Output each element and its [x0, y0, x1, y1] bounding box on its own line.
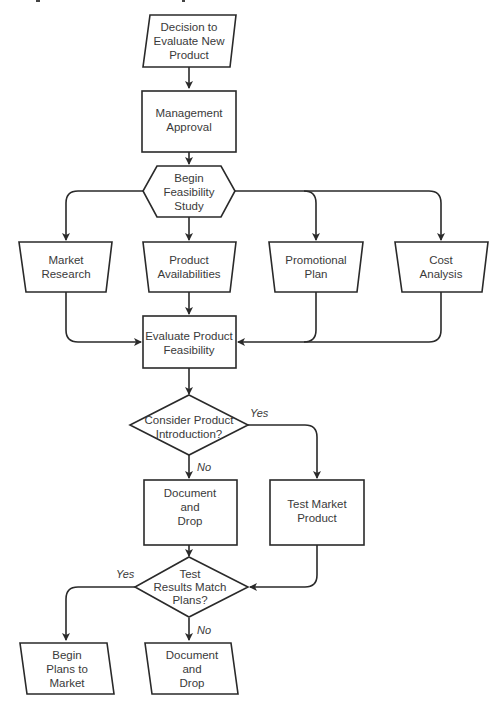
node-label: Product	[169, 254, 209, 266]
edge-label-no: No	[197, 461, 211, 473]
node-label: Management	[155, 107, 223, 119]
edge-label-yes: Yes	[116, 568, 135, 580]
node-label: Analysis	[420, 268, 463, 280]
node-label: Promotional	[285, 254, 346, 266]
node-label: Product	[169, 49, 209, 61]
node-label: Research	[41, 268, 90, 280]
node-label: and	[180, 501, 199, 513]
node-label: Cost	[429, 254, 453, 266]
edge-label-no: No	[197, 624, 211, 636]
node-label: Document	[164, 487, 217, 499]
node-test-market-product: Test Market Product	[270, 480, 364, 545]
node-promotional-plan: Promotional Plan	[269, 242, 363, 292]
node-market-research: Market Research	[19, 242, 112, 292]
node-cost-analysis: Cost Analysis	[395, 242, 488, 292]
node-evaluate-product-feasibility: Evaluate Product Feasibility	[143, 316, 236, 368]
edge-promo-plan-evaluate	[304, 292, 316, 342]
node-label: Feasibility	[163, 344, 214, 356]
node-label: Results Match	[154, 581, 227, 593]
node-label: Consider Product	[145, 414, 235, 426]
node-label: Market	[48, 254, 84, 266]
node-label: Document	[166, 649, 219, 661]
node-label: Availabilities	[157, 268, 220, 280]
edge-feasibility-cost-analysis	[304, 191, 441, 240]
node-begin-feasibility-study: Begin Feasibility Study	[143, 166, 235, 217]
node-label: Test	[179, 568, 201, 580]
edge-consider-yes-test-market	[248, 425, 317, 478]
node-label: Evaluate Product	[145, 330, 233, 342]
edge-cost-analysis-evaluate	[238, 292, 441, 342]
node-label: Plans to	[46, 663, 88, 675]
edge-label-yes: Yes	[250, 407, 269, 419]
node-label: Study	[174, 200, 204, 212]
node-label: Approval	[166, 121, 211, 133]
top-caption-remnant	[36, 0, 185, 2]
node-test-results-match-plans: Test Results Match Plans?	[135, 557, 248, 617]
node-document-and-drop-2: Document and Drop	[145, 643, 238, 694]
node-label: and	[182, 663, 201, 675]
node-label: Market	[49, 677, 85, 689]
node-label: Test Market	[287, 498, 347, 510]
node-label: Plans?	[172, 594, 207, 606]
node-label: Drop	[180, 677, 205, 689]
edge-feasibility-market-research	[66, 191, 143, 240]
node-document-and-drop-1: Document and Drop	[144, 480, 237, 545]
node-label: Begin	[52, 649, 81, 661]
node-label: Evaluate New	[154, 35, 226, 47]
node-label: Product	[297, 512, 337, 524]
node-label: Drop	[178, 515, 203, 527]
flowchart-canvas: Decision to Evaluate New Product Managem…	[0, 0, 502, 707]
edge-test-market-test-results	[250, 545, 317, 587]
edge-feasibility-promo-plan	[235, 191, 316, 240]
node-label: Feasibility	[163, 186, 214, 198]
edge-market-research-evaluate	[66, 292, 141, 342]
edge-results-yes-begin-plans	[66, 587, 135, 640]
node-begin-plans-to-market: Begin Plans to Market	[20, 643, 114, 694]
node-consider-product-introduction: Consider Product Introduction?	[130, 395, 248, 455]
node-product-availabilities: Product Availabilities	[143, 242, 236, 292]
node-label: Plan	[304, 268, 327, 280]
node-management-approval: Management Approval	[142, 91, 236, 152]
node-label: Decision to	[161, 21, 218, 33]
node-label: Introduction?	[156, 428, 223, 440]
node-decision-to-evaluate: Decision to Evaluate New Product	[143, 15, 236, 67]
node-label: Begin	[174, 172, 203, 184]
connectors	[66, 67, 441, 640]
